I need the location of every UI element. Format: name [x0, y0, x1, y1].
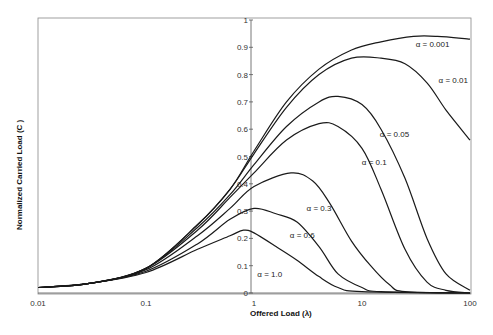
x-tick-label: 0.01: [30, 299, 46, 308]
x-axis: 0.010.1110100: [30, 299, 477, 308]
y-tick-label: 1: [244, 16, 249, 25]
y-tick-label: 0.8: [237, 71, 249, 80]
curve-label: α = 0.6: [290, 231, 315, 240]
chart: 00.10.20.30.40.50.60.70.80.91 0.010.1110…: [0, 0, 493, 335]
curve-label: α = 0.1: [362, 158, 387, 167]
curve-label: α = 0.001: [416, 40, 450, 49]
y-axis: 00.10.20.30.40.50.60.70.80.91: [38, 16, 471, 298]
curve-label: α = 0.01: [439, 76, 469, 85]
x-tick-label: 0.1: [140, 299, 152, 308]
curve-line: [38, 230, 470, 293]
x-axis-title: Offered Load (λ): [250, 309, 312, 318]
y-tick-label: 0.5: [237, 153, 249, 162]
y-tick-label: 0.1: [237, 262, 249, 271]
y-tick-label: 0.7: [237, 98, 249, 107]
y-tick-label: 0: [244, 289, 249, 298]
y-axis-title: Normalized Carried Load (C ): [15, 119, 24, 230]
y-tick-label: 0.6: [237, 125, 249, 134]
curve-line: [38, 123, 470, 293]
curve-label: α = 0.05: [380, 130, 410, 139]
x-tick-label: 100: [463, 299, 477, 308]
curves: [38, 36, 470, 293]
x-tick-label: 10: [358, 299, 367, 308]
curve-label: α = 1.0: [257, 270, 282, 279]
curve-line: [38, 96, 470, 290]
curve-label: α = 0.3: [307, 204, 332, 213]
x-tick-label: 1: [252, 299, 257, 308]
y-tick-label: 0.9: [237, 43, 249, 52]
y-tick-label: 0.2: [237, 234, 249, 243]
curve-labels: α = 0.001α = 0.01α = 0.05α = 0.1α = 0.3α…: [257, 40, 468, 278]
